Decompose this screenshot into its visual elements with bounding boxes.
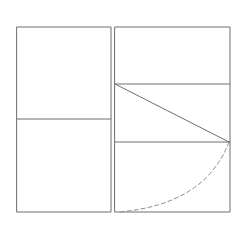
dashed-arc <box>118 142 229 212</box>
right-panel-border <box>115 27 230 212</box>
sketch-diagram <box>0 0 248 230</box>
right-panel <box>115 27 230 212</box>
left-panel <box>17 27 111 212</box>
diagonal-line <box>115 84 229 142</box>
